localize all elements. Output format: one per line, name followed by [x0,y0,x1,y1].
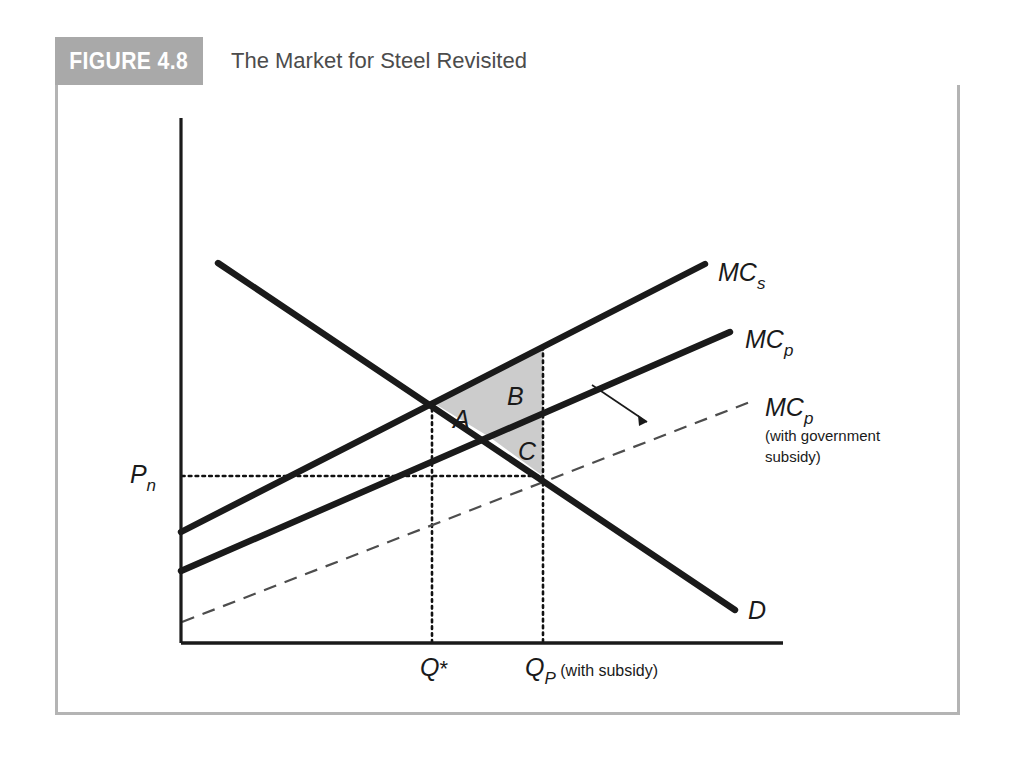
mc-p-subsidy-note-line1: (with government [765,427,881,444]
subsidy-shift-arrow [592,385,647,426]
figure-title: The Market for Steel Revisited [203,37,960,85]
mc-s-label: MCs [718,258,766,293]
mc-p-label: MCp [745,325,793,360]
figure-header: FIGURE 4.8 The Market for Steel Revisite… [55,37,960,85]
mc-s-curve [181,264,705,532]
mc-p-subsidy-label: MCp [765,393,813,428]
quantity-tick-label-q-p: QP (with subsidy) [525,653,658,688]
page-root: FIGURE 4.8 The Market for Steel Revisite… [0,0,1014,764]
region-c-label: C [518,437,537,465]
quantity-tick-label-q-star: Q* [420,653,448,681]
mc-p-curve [181,332,730,571]
region-a-label: A [451,405,470,433]
region-b-label: B [507,382,524,410]
figure-plot: MCs MCp MCp (with government subsidy) D … [55,85,960,715]
demand-label: D [748,596,766,624]
demand-curve [218,263,735,610]
price-tick-label-pn: Pn [130,460,156,495]
mc-p-subsidy-note-line2: subsidy) [765,448,821,465]
figure-number-box: FIGURE 4.8 [55,37,203,85]
figure-number-label: FIGURE 4.8 [70,48,189,75]
